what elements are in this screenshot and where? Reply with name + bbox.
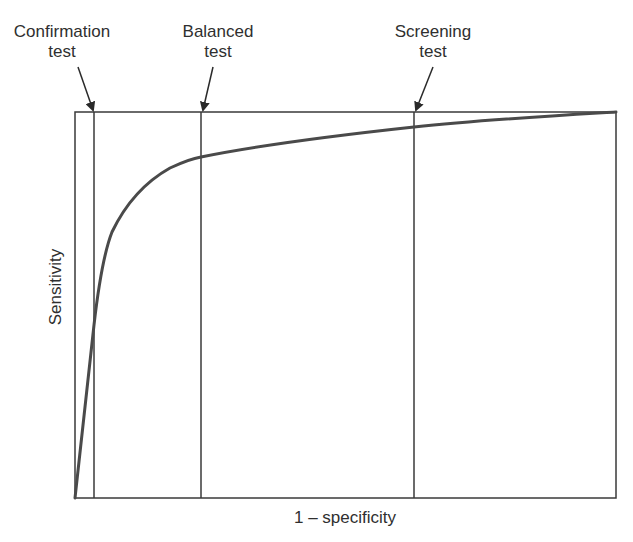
confirmation-label-line2: test	[2, 42, 122, 62]
screening-test-annotation: Screening test	[378, 22, 488, 62]
plot-frame	[75, 112, 616, 498]
screening-label-line1: Screening	[378, 22, 488, 42]
balanced-label-line2: test	[163, 42, 273, 62]
roc-chart	[0, 0, 633, 542]
y-axis-label: Sensitivity	[46, 249, 66, 326]
balanced-test-annotation: Balanced test	[163, 22, 273, 62]
balanced-label-line1: Balanced	[163, 22, 273, 42]
confirmation-arrow-icon	[78, 67, 93, 110]
confirmation-test-annotation: Confirmation test	[2, 22, 122, 62]
screening-arrow-icon	[416, 67, 433, 110]
balanced-arrow-icon	[203, 67, 213, 110]
confirmation-label-line1: Confirmation	[2, 22, 122, 42]
x-axis-label: 1 – specificity	[245, 508, 445, 528]
roc-curve	[75, 112, 616, 498]
screening-label-line2: test	[378, 42, 488, 62]
